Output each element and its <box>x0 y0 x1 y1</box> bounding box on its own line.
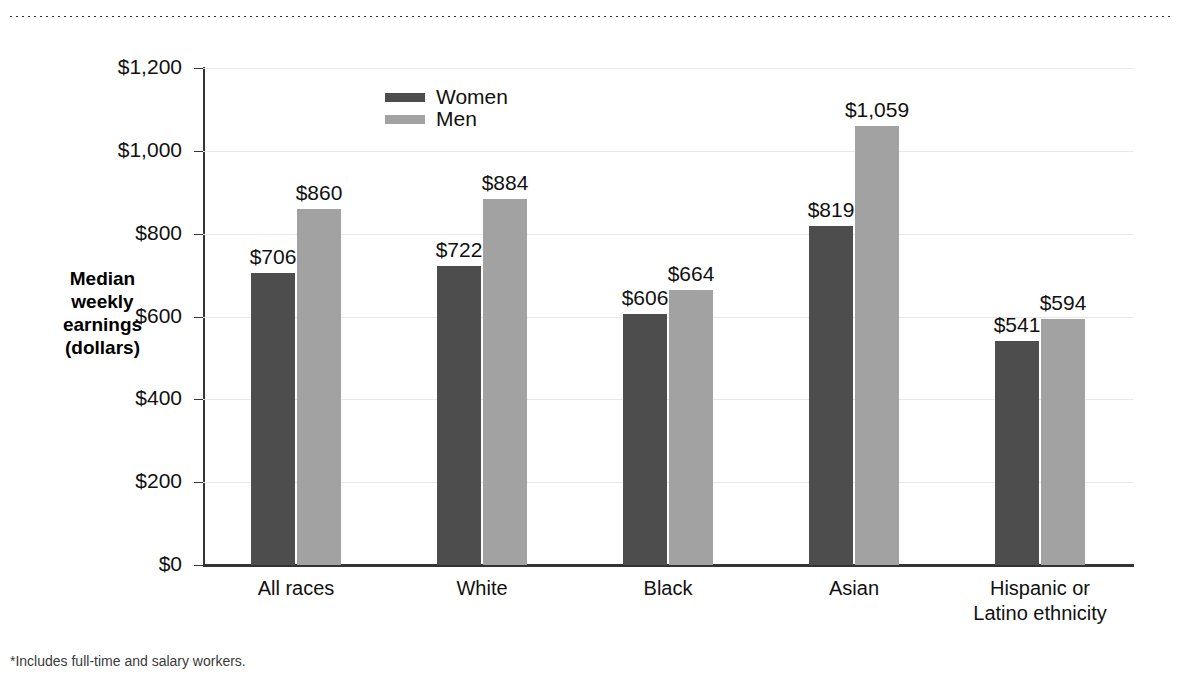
gridline <box>203 482 1133 483</box>
y-axis-tick-label: $1,200 <box>72 55 182 79</box>
y-axis-tick <box>194 399 203 400</box>
bar-value-label: $664 <box>643 262 739 286</box>
gridline <box>203 68 1133 69</box>
y-axis-tick-label: $800 <box>72 221 182 245</box>
bar-men-3 <box>855 126 899 565</box>
legend-swatch-icon <box>385 115 425 124</box>
bar-women-1 <box>437 266 481 565</box>
dotted-rule <box>8 14 1172 17</box>
y-axis-tick-label: $400 <box>72 386 182 410</box>
y-axis-tick-labels: $0$200$400$600$800$1,000$1,200 <box>72 0 182 600</box>
bar-men-0 <box>297 209 341 565</box>
legend-label: Men <box>436 107 477 131</box>
legend-swatch-icon <box>385 93 425 102</box>
legend-item: Women <box>385 86 508 108</box>
y-axis-tick <box>194 68 203 69</box>
legend-label: Women <box>436 85 508 109</box>
bar-women-3 <box>809 226 853 565</box>
bar-women-0 <box>251 273 295 565</box>
footnote: *Includes full-time and salary workers. <box>10 653 246 669</box>
y-axis-tick <box>194 482 203 483</box>
bar-value-label: $594 <box>1015 291 1111 315</box>
gridline <box>203 399 1133 400</box>
bar-value-label: $1,059 <box>829 98 925 122</box>
bar-men-1 <box>483 199 527 565</box>
bar-women-2 <box>623 314 667 565</box>
x-axis-category-label: Hispanic or Latino ethnicity <box>927 576 1153 626</box>
y-axis-tick <box>194 234 203 235</box>
y-axis-tick-label: $1,000 <box>72 138 182 162</box>
y-axis-tick <box>194 565 203 566</box>
gridline <box>203 234 1133 235</box>
y-axis-tick-label: $200 <box>72 469 182 493</box>
chart-page: Medianweeklyearnings(dollars) $0$200$400… <box>0 0 1193 679</box>
y-axis-tick-label: $600 <box>72 304 182 328</box>
bar-women-4 <box>995 341 1039 565</box>
chart-legend: WomenMen <box>385 86 508 130</box>
bar-value-label: $860 <box>271 181 367 205</box>
gridline <box>203 151 1133 152</box>
y-axis-tick <box>194 151 203 152</box>
y-axis-tick-label: $0 <box>72 552 182 576</box>
bar-men-2 <box>669 290 713 565</box>
legend-item: Men <box>385 108 508 130</box>
bar-men-4 <box>1041 319 1085 565</box>
y-axis-tick <box>194 317 203 318</box>
bar-value-label: $884 <box>457 171 553 195</box>
